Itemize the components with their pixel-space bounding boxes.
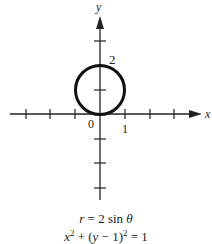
cartesian-minus: − 1): [98, 229, 123, 244]
polar-rhs: = 2 sin: [84, 211, 126, 226]
polar-graph: y x 2 0 1: [0, 0, 212, 244]
y-axis-label: y: [95, 0, 102, 14]
y-tick-label-2: 2: [109, 52, 116, 67]
cartesian-eq: = 1: [128, 229, 148, 244]
y-axis-arrow-icon: [96, 16, 104, 29]
y-axis: [94, 16, 106, 200]
x-tick-label-1: 1: [122, 122, 128, 136]
x-axis-label: x: [204, 107, 211, 121]
x-axis-arrow-icon: [189, 110, 202, 118]
cartesian-equation: x2 + (y − 1)2 = 1: [0, 230, 212, 244]
origin-label: 0: [88, 117, 94, 131]
polar-equation: r = 2 sin θ: [0, 212, 212, 226]
cartesian-mid: + (: [74, 229, 92, 244]
polar-theta: θ: [126, 211, 132, 226]
